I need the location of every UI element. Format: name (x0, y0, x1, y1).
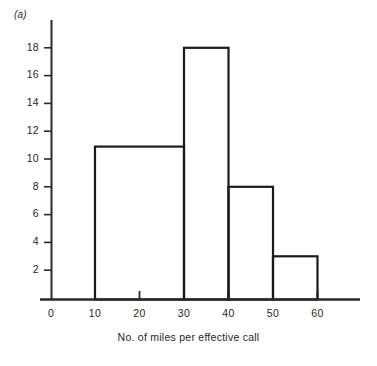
x-tick-label-40: 40 (222, 307, 234, 319)
bar-30-40 (184, 48, 229, 300)
y-axis-tick-labels: 2 4 6 8 10 12 14 16 18 (27, 41, 39, 275)
y-tick-label-6: 6 (33, 207, 39, 219)
bar-40-50 (229, 187, 274, 300)
y-tick-label-4: 4 (33, 235, 39, 247)
y-tick-label-2: 2 (33, 263, 39, 275)
x-tick-label-30: 30 (178, 307, 190, 319)
x-axis-ticks (95, 291, 318, 300)
x-tick-label-0: 0 (48, 307, 54, 319)
x-axis-tick-labels: 0 10 20 30 40 50 60 (48, 307, 324, 319)
y-axis-ticks (44, 48, 52, 270)
x-axis-label: No. of miles per effective call (0, 331, 377, 343)
x-tick-label-10: 10 (89, 307, 101, 319)
x-tick-label-50: 50 (267, 307, 279, 319)
y-tick-label-8: 8 (33, 180, 39, 192)
histogram-figure: (a) 2 4 6 8 10 12 14 16 18 (0, 0, 377, 366)
histogram-plot: 2 4 6 8 10 12 14 16 18 0 10 20 30 40 50 (0, 0, 377, 366)
y-tick-label-16: 16 (27, 68, 39, 80)
histogram-bars (95, 48, 318, 300)
y-tick-label-14: 14 (27, 96, 39, 108)
y-tick-label-12: 12 (27, 124, 39, 136)
y-tick-label-10: 10 (27, 152, 39, 164)
y-tick-label-18: 18 (27, 41, 39, 53)
bar-50-60 (273, 256, 318, 299)
x-tick-label-20: 20 (133, 307, 145, 319)
x-tick-label-60: 60 (311, 307, 323, 319)
bar-10-30 (95, 147, 184, 300)
